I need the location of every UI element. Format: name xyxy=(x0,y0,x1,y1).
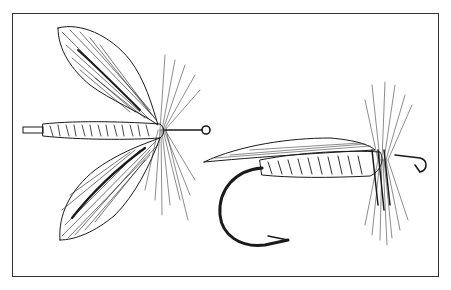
left-fly xyxy=(23,27,210,240)
right-fly xyxy=(204,82,426,245)
fishing-flies-illustration xyxy=(0,0,451,290)
